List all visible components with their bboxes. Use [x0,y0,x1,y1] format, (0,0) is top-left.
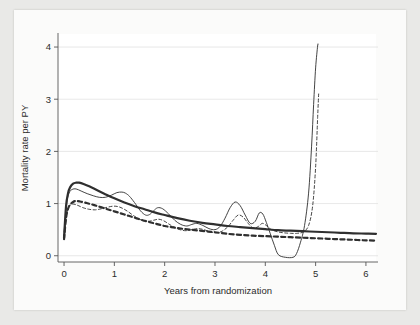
x-tick-label: 0 [61,268,66,279]
y-tick-label: 0 [46,250,51,261]
y-tick-label: 1 [46,198,51,209]
x-axis-ticks: 0123456 [61,262,368,279]
x-tick-label: 4 [263,268,268,279]
figure-root: 01234 0123456 Years from randomization M… [0,0,420,325]
x-axis-title: Years from randomization [164,285,272,296]
x-tick-label: 2 [162,268,167,279]
y-axis-title: Mortality rate per PY [19,104,30,191]
chart-canvas: 01234 0123456 Years from randomization M… [0,0,420,325]
x-tick-label: 6 [363,268,368,279]
y-tick-label: 4 [46,41,51,52]
x-tick-label: 1 [112,268,117,279]
y-axis-ticks: 01234 [46,41,58,261]
x-tick-label: 5 [313,268,318,279]
y-tick-label: 3 [46,94,51,105]
plot-background [58,34,376,262]
y-tick-label: 2 [46,146,51,157]
x-tick-label: 3 [212,268,217,279]
